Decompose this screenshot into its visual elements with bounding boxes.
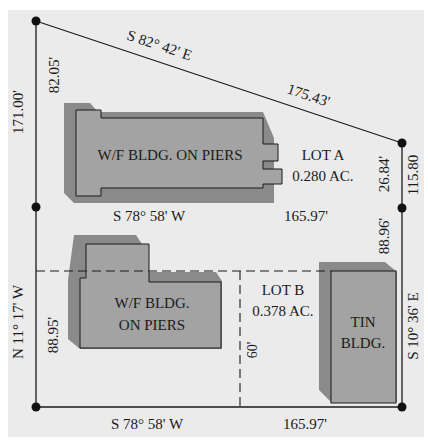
lot-b-building-label-line2: ON PIERS bbox=[119, 317, 185, 333]
corner-marker-w-mid bbox=[32, 203, 41, 212]
lot-a-building-label: W/F BLDG. ON PIERS bbox=[97, 147, 242, 163]
tin-building-label-line2: BLDG. bbox=[341, 335, 386, 351]
lot-b-area: 0.378 AC. bbox=[252, 303, 313, 319]
west-lower-distance-label: 88.95' bbox=[45, 316, 61, 353]
corner-marker-se bbox=[398, 403, 407, 412]
south-distance-label: 165.97' bbox=[283, 416, 327, 432]
corner-marker-ne bbox=[398, 139, 407, 148]
lot-b-building-label-line1: W/F BLDG. bbox=[115, 295, 190, 311]
divider-distance-label: 165.97' bbox=[284, 208, 328, 224]
corner-marker-sw bbox=[32, 403, 41, 412]
east-bearing-label: S 10° 36' E bbox=[405, 292, 421, 359]
east-upper-distance-label: 26.84' bbox=[376, 155, 392, 192]
west-bearing-label: N 11° 17' W bbox=[10, 284, 26, 359]
west-upper-distance-label: 82.05' bbox=[46, 56, 62, 93]
divider-bearing-label: S 78° 58' W bbox=[113, 208, 186, 224]
south-bearing-label: S 78° 58' W bbox=[111, 416, 184, 432]
west-total-distance-label: 171.00' bbox=[10, 90, 26, 134]
east-lower-distance-label: 88.96' bbox=[376, 217, 392, 254]
lot-a-area: 0.280 AC. bbox=[292, 168, 353, 184]
lot-b-name: LOT B bbox=[262, 282, 305, 298]
lot-a-name: LOT A bbox=[302, 147, 345, 163]
east-total-distance-label: 115.80 bbox=[405, 155, 421, 196]
corner-marker-nw bbox=[32, 17, 41, 26]
tin-building: TIN BLDG. bbox=[319, 262, 397, 403]
easement-width-label: 60' bbox=[245, 342, 260, 359]
tin-building-label-line1: TIN bbox=[351, 314, 376, 330]
corner-marker-e-mid bbox=[398, 204, 407, 213]
lot-a-building: W/F BLDG. ON PIERS bbox=[64, 103, 282, 203]
survey-plat: W/F BLDG. ON PIERS W/F BLDG. ON PIERS TI… bbox=[0, 0, 428, 446]
